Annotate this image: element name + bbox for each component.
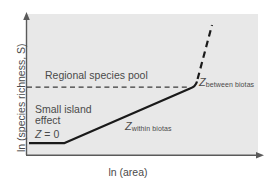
z-within-subscript: within biotas <box>132 125 172 132</box>
small-island-effect-line2: effect <box>35 114 61 126</box>
regional-species-pool-label: Regional species pool <box>45 70 148 81</box>
z-between-symbol: Z <box>199 76 206 88</box>
y-axis-label: ln (species richness, S) <box>16 0 27 152</box>
small-island-effect-line1: Small island <box>35 103 92 115</box>
x-axis-arrowhead <box>256 152 264 159</box>
x-axis-label: ln (area) <box>108 167 147 178</box>
z-between-subscript: between biotas <box>206 81 255 88</box>
z-equals-zero-value: = 0 <box>41 128 59 140</box>
plot-canvas <box>0 0 275 187</box>
z-equals-zero-annotation: Z = 0 <box>35 129 92 140</box>
small-island-effect-annotation: Small island effect Z = 0 <box>35 104 92 140</box>
z-between-biotas-annotation: Zbetween biotas <box>199 77 254 89</box>
z-within-biotas-annotation: Zwithin biotas <box>125 121 172 133</box>
z-within-symbol: Z <box>125 120 132 132</box>
species-area-relationship-figure: ln (species richness, S) ln (area) Regio… <box>0 0 275 187</box>
